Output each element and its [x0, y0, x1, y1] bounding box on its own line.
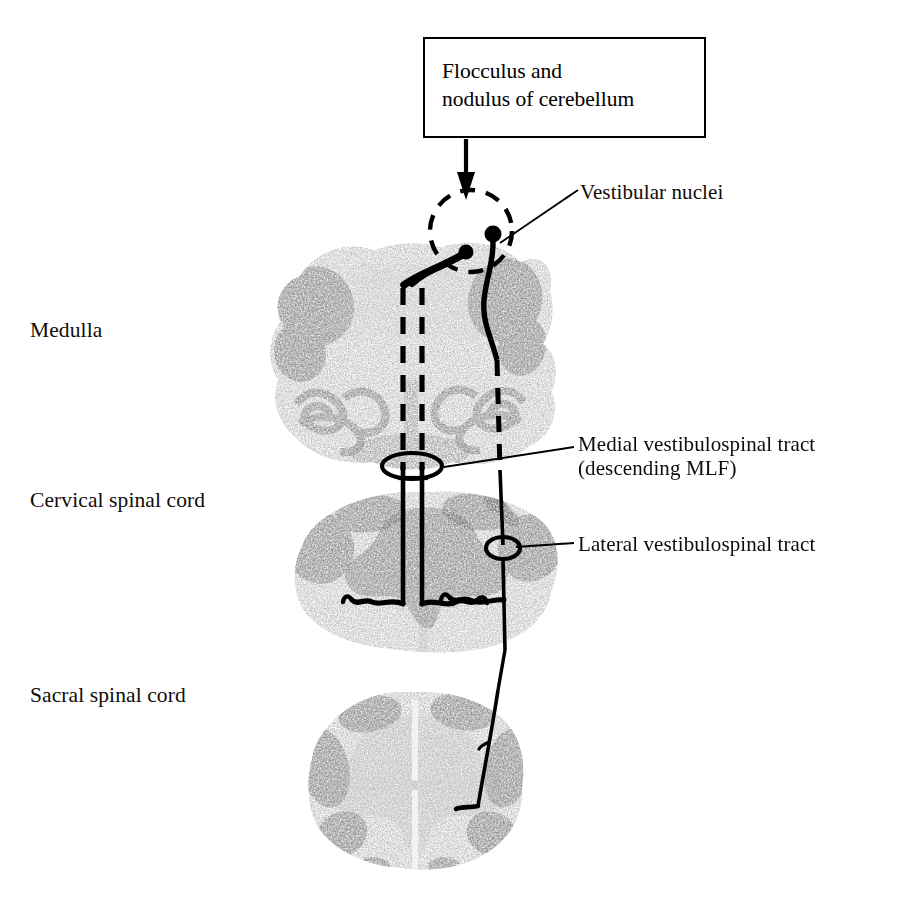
section-label-sacral-spinal-cord: Sacral spinal cord — [30, 683, 186, 708]
mvst-neuron-soma — [459, 245, 474, 260]
cervical-section — [276, 480, 580, 670]
structure-label-lateral-vestibulospinal-tract: Lateral vestibulospinal tract — [578, 532, 815, 556]
figure-root: Flocculus andnodulus of cerebellum Medul… — [0, 0, 914, 916]
callout-box: Flocculus andnodulus of cerebellum — [423, 37, 706, 138]
section-label-cervical-spinal-cord: Cervical spinal cord — [30, 488, 205, 513]
structure-label-medial-vestibulospinal-tract: Medial vestibulospinal tract(descending … — [578, 432, 815, 481]
medial-tract-line-1: Medial vestibulospinal tract — [578, 432, 815, 456]
lvst-neuron-soma — [485, 226, 502, 243]
callout-line-1: Flocculus and — [442, 59, 562, 83]
callout-line-2: nodulus of cerebellum — [442, 87, 634, 111]
vestibular-nuclei-line-1: Vestibular nuclei — [580, 180, 723, 204]
structure-label-vestibular-nuclei: Vestibular nuclei — [580, 180, 723, 204]
medial-tract-line-2: (descending MLF) — [578, 456, 815, 480]
callout-text: Flocculus andnodulus of cerebellum — [442, 58, 634, 114]
lateral-tract-line-1: Lateral vestibulospinal tract — [578, 532, 815, 556]
section-label-medulla: Medulla — [30, 318, 102, 343]
sacral-section — [293, 680, 540, 880]
